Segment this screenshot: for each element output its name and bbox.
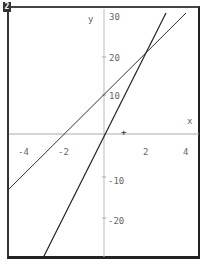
plot-area[interactable]: y x 30 20 10 -10 -20 -4 -2 2 4 + [0, 0, 205, 269]
y-axis-label: y [88, 14, 94, 24]
x-tick-label: -2 [58, 147, 69, 157]
y-tick-label: 10 [109, 91, 120, 101]
x-axis-label: x [187, 116, 193, 126]
x-tick-label: 2 [143, 147, 148, 157]
y-tick-label: 30 [109, 12, 120, 22]
crosshair-cursor-icon: + [121, 127, 127, 137]
y-tick-label: 20 [109, 53, 120, 63]
x-tick-label: 4 [183, 147, 188, 157]
line-5x-plus-10 [9, 13, 186, 189]
y-tick-label: -20 [108, 216, 124, 226]
x-tick-label: -4 [18, 147, 29, 157]
y-tick-label: -10 [108, 176, 124, 186]
